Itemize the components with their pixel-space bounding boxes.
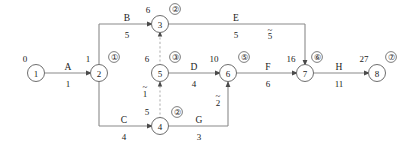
node-4-time: 5 (145, 107, 150, 117)
activity-b-label: B (124, 13, 130, 23)
activity-d-label: D (191, 62, 198, 72)
node-8-time: 27 (360, 54, 370, 64)
node-1-time: 0 (23, 54, 28, 64)
node-7-time: 16 (287, 54, 297, 64)
activity-g-label: G (196, 115, 203, 125)
activity-g-slack: 2 (216, 98, 221, 108)
activity-e-slack: 5 (268, 31, 273, 41)
node-2-time: 1 (86, 54, 91, 64)
activity-b-duration: 5 (125, 30, 130, 40)
aoa-network-svg: 1 0 2 1 ① 3 6 ② 5 6 ③ 4 5 ② 6 10 ⑤ 7 (0, 0, 404, 146)
activity-g-slack-group: ~ 2 (216, 91, 221, 108)
activity-e-slack-group: ~ 5 (268, 25, 273, 41)
activity-e-label: E (233, 13, 239, 23)
activity-d-duration: 4 (192, 79, 197, 89)
node-6-time: 10 (210, 54, 220, 64)
node-3-time: 6 (146, 5, 151, 15)
node-5-label: 5 (158, 69, 163, 79)
activity-c-duration: 4 (122, 132, 127, 142)
node-7-label: 7 (303, 69, 308, 79)
node-4-label: 4 (158, 122, 163, 132)
dummy-45-slack: 1 (143, 89, 148, 99)
node-5-marker: ③ (172, 53, 179, 62)
node-7-marker: ⑥ (314, 53, 321, 62)
activity-g-duration: 3 (197, 132, 202, 142)
activity-c-label: C (121, 115, 127, 125)
activity-a-duration: 1 (66, 79, 71, 89)
node-2-marker: ① (111, 53, 118, 62)
activity-a-label: A (65, 62, 72, 72)
node-4-marker: ② (174, 108, 181, 117)
activity-h-duration: 11 (335, 79, 344, 89)
node-6-marker: ⑤ (241, 53, 248, 62)
node-3-marker: ② (172, 5, 179, 14)
activity-f-label: F (265, 62, 270, 72)
activity-e-duration: 5 (234, 30, 239, 40)
node-2-label: 2 (97, 69, 102, 79)
activity-h-label: H (336, 62, 343, 72)
node-3-label: 3 (158, 20, 163, 30)
network-diagram: 1 0 2 1 ① 3 6 ② 5 6 ③ 4 5 ② 6 10 ⑤ 7 (0, 0, 404, 146)
node-5-time: 6 (145, 54, 150, 64)
node-8-marker: ⑦ (388, 53, 395, 62)
node-8-label: 8 (375, 69, 380, 79)
activity-f-duration: 6 (266, 79, 271, 89)
dummy-45-slack-group: ~ 1 (143, 82, 148, 99)
node-1-label: 1 (34, 69, 39, 79)
node-6-label: 6 (226, 69, 231, 79)
